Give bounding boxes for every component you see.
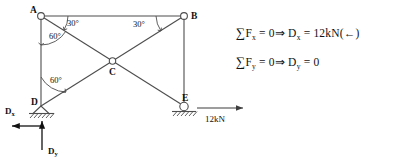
angle-label-B-30: 30° bbox=[133, 19, 145, 29]
support-E-roller bbox=[172, 102, 197, 116]
force-term-fy-sub: y bbox=[252, 62, 256, 71]
support-D-pinned bbox=[29, 106, 54, 118]
result-term-dx: D bbox=[288, 27, 297, 39]
support-E-hatching bbox=[173, 112, 197, 117]
support-D-triangle-icon bbox=[33, 106, 49, 114]
implies-symbol-fx: ⇒ bbox=[275, 27, 285, 39]
reaction-label-dx: Dx bbox=[5, 106, 16, 117]
equation-sum-fy: ∑Fy = 0⇒ Dy = 0 bbox=[236, 55, 391, 71]
result-term-dy: D bbox=[288, 56, 297, 68]
result-value-dy: = 0 bbox=[304, 56, 320, 68]
equals-zero-fy: = 0 bbox=[259, 56, 275, 68]
result-value-dx: = 12kN(←) bbox=[304, 27, 360, 39]
reaction-label-dx-sub: x bbox=[12, 110, 16, 117]
reaction-label-dy: Dy bbox=[48, 146, 59, 157]
equals-zero-fx: = 0 bbox=[259, 27, 275, 39]
node-label-A: A bbox=[30, 5, 37, 15]
support-E-roller-icon bbox=[180, 102, 188, 110]
reaction-label-dy-sub: y bbox=[55, 150, 59, 157]
result-term-dy-sub: y bbox=[297, 62, 301, 71]
result-term-dx-sub: x bbox=[297, 33, 301, 42]
angle-label-A-30: 30° bbox=[67, 18, 79, 28]
angle-arc-B-30 bbox=[156, 16, 161, 31]
truss-figure: A B C D E 30° 60° 30° 60° 12kN Dx Dy ∑Fx… bbox=[0, 0, 393, 163]
support-D-hatching bbox=[30, 114, 54, 119]
joint-B-pin-icon bbox=[181, 13, 188, 20]
joint-C-pin-icon bbox=[109, 58, 115, 64]
node-label-D: D bbox=[31, 97, 38, 107]
joint-A-pin-icon bbox=[38, 13, 45, 20]
implies-symbol-fy: ⇒ bbox=[275, 56, 285, 68]
node-label-C: C bbox=[109, 67, 116, 77]
equilibrium-equations: ∑Fx = 0⇒ Dx = 12kN(←) ∑Fy = 0⇒ Dy = 0 bbox=[236, 26, 391, 84]
node-label-B: B bbox=[191, 11, 198, 21]
equation-sum-fx: ∑Fx = 0⇒ Dx = 12kN(←) bbox=[236, 26, 391, 42]
node-label-E: E bbox=[182, 93, 188, 103]
load-label-12kn: 12kN bbox=[205, 114, 226, 124]
angle-label-D-60: 60° bbox=[50, 75, 62, 85]
angle-label-A-60: 60° bbox=[49, 31, 61, 41]
force-term-fx-sub: x bbox=[252, 33, 256, 42]
